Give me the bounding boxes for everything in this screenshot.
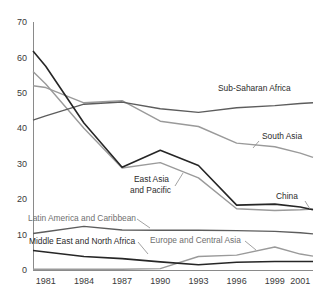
chart-container: 010203040506070 198119841987199019931996… [0, 0, 315, 303]
y-tick-label: 10 [17, 230, 27, 240]
x-tick-label: 2001 [290, 276, 310, 286]
y-tick-label: 50 [17, 88, 27, 98]
x-tick-label: 1984 [74, 276, 94, 286]
line-chart: 010203040506070 198119841987199019931996… [0, 0, 315, 303]
x-tick-label: 1999 [265, 276, 285, 286]
y-tick-label: 20 [17, 194, 27, 204]
series-label: Middle East and North Africa [29, 236, 135, 246]
y-tick-label: 30 [17, 159, 27, 169]
y-tick-label: 40 [17, 123, 27, 133]
series-label: and Pacific [130, 185, 171, 195]
x-tick-label: 1990 [150, 276, 170, 286]
series-label: Sub-Saharan Africa [218, 83, 291, 93]
y-tick-label: 70 [17, 17, 27, 27]
x-tick-label: 1993 [188, 276, 208, 286]
x-tick-label: 1987 [112, 276, 132, 286]
y-tick-label: 0 [22, 265, 27, 275]
x-tick-label: 1981 [36, 276, 56, 286]
series-label: East Asia [134, 174, 169, 184]
x-tick-label: 1996 [227, 276, 247, 286]
y-tick-label: 60 [17, 53, 27, 63]
series-label: Europe and Central Asia [150, 235, 241, 245]
series-label: Latin America and Caribbean [28, 213, 136, 223]
series-label: China [276, 191, 298, 201]
series-label: South Asia [262, 131, 302, 141]
